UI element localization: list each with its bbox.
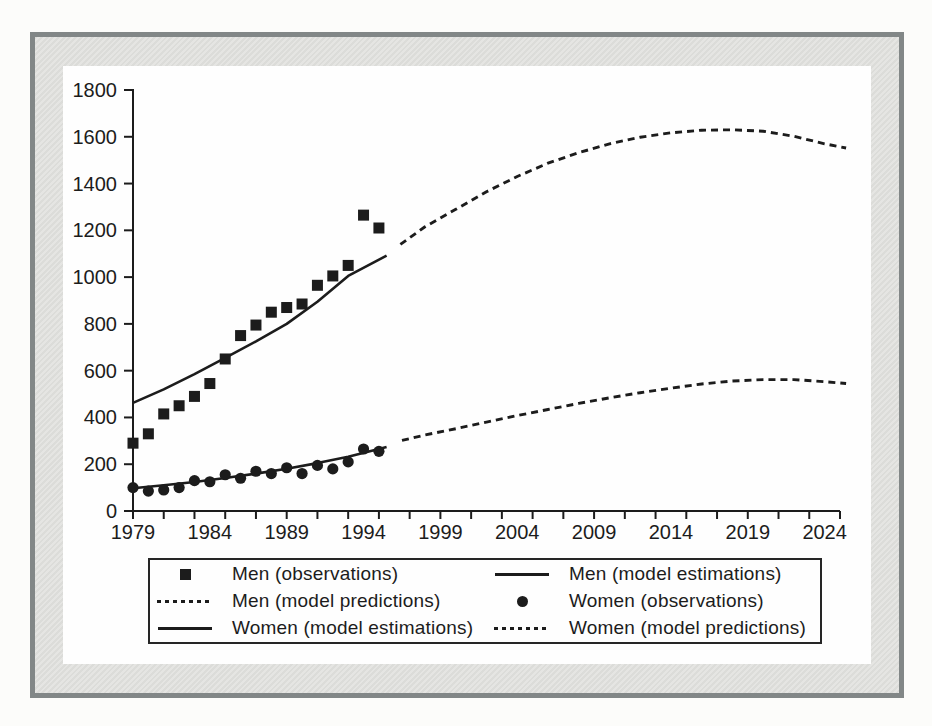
- legend-label: Women (model estimations): [232, 617, 473, 639]
- men-observation-point: [189, 391, 200, 402]
- women-observation-point: [158, 484, 169, 495]
- men-observation-point: [312, 280, 323, 291]
- men-observation-point: [266, 307, 277, 318]
- y-tick-label: 200: [84, 453, 117, 475]
- square-icon: [180, 569, 191, 580]
- legend-marker: [487, 573, 557, 576]
- men-observation-point: [158, 408, 169, 419]
- legend-label: Women (observations): [569, 590, 764, 612]
- women-observation-point: [343, 456, 354, 467]
- x-tick-label: 2024: [802, 521, 847, 543]
- x-tick-label: 1979: [111, 521, 156, 543]
- legend-marker: [150, 627, 220, 630]
- y-tick-label: 1800: [73, 79, 118, 101]
- chart-legend: Men (observations)Men (model estimations…: [148, 558, 822, 644]
- y-tick-label: 0: [106, 500, 117, 522]
- legend-item: Men (model estimations): [487, 561, 820, 587]
- women-observation-point: [373, 446, 384, 457]
- page-background: 0200400600800100012001400160018001979198…: [0, 0, 932, 726]
- men-observation-point: [220, 353, 231, 364]
- men-observation-point: [343, 260, 354, 271]
- solid-line-icon: [158, 627, 212, 630]
- men-model-predictions-line: [400, 130, 846, 245]
- women-observation-point: [266, 468, 277, 479]
- men-observation-point: [128, 438, 139, 449]
- men-observation-point: [174, 400, 185, 411]
- women-observation-point: [250, 466, 261, 477]
- y-tick-label: 1000: [73, 266, 118, 288]
- men-observation-point: [358, 210, 369, 221]
- legend-item: Women (observations): [487, 588, 820, 614]
- dashed-line-icon: [157, 600, 213, 603]
- legend-item: Men (model predictions): [150, 588, 487, 614]
- legend-label: Men (model estimations): [569, 563, 782, 585]
- solid-line-icon: [495, 573, 549, 576]
- men-observation-point: [250, 320, 261, 331]
- women-model-predictions-line: [402, 380, 846, 441]
- legend-label: Men (model predictions): [232, 590, 440, 612]
- men-observation-point: [143, 428, 154, 439]
- men-observation-point: [204, 378, 215, 389]
- x-tick-label: 1994: [341, 521, 386, 543]
- women-observation-point: [358, 443, 369, 454]
- legend-label: Women (model predictions): [569, 617, 806, 639]
- x-tick-label: 2014: [649, 521, 694, 543]
- dashed-line-icon: [494, 627, 550, 630]
- y-tick-label: 600: [84, 360, 117, 382]
- men-observation-point: [281, 302, 292, 313]
- legend-item: Women (model estimations): [150, 615, 487, 641]
- men-observation-point: [373, 222, 384, 233]
- circle-icon: [517, 596, 528, 607]
- women-observation-point: [204, 476, 215, 487]
- women-observation-point: [327, 463, 338, 474]
- x-tick-label: 2009: [572, 521, 617, 543]
- legend-marker: [150, 569, 220, 580]
- legend-marker: [487, 596, 557, 607]
- women-observation-point: [127, 482, 138, 493]
- women-observation-point: [235, 473, 246, 484]
- women-observation-point: [312, 460, 323, 471]
- y-tick-label: 800: [84, 313, 117, 335]
- legend-label: Men (observations): [232, 563, 398, 585]
- figure-frame: 0200400600800100012001400160018001979198…: [30, 32, 904, 698]
- legend-marker: [150, 600, 220, 603]
- women-observation-point: [281, 462, 292, 473]
- chart-panel: 0200400600800100012001400160018001979198…: [63, 66, 871, 664]
- legend-item: Women (model predictions): [487, 615, 820, 641]
- women-observation-point: [189, 475, 200, 486]
- x-tick-label: 1984: [188, 521, 233, 543]
- women-observation-point: [143, 486, 154, 497]
- legend-item: Men (observations): [150, 561, 487, 587]
- x-tick-label: 1999: [418, 521, 463, 543]
- x-tick-label: 1989: [264, 521, 309, 543]
- x-tick-label: 2019: [726, 521, 771, 543]
- women-observation-point: [296, 468, 307, 479]
- x-tick-label: 2004: [495, 521, 540, 543]
- y-tick-label: 1600: [73, 126, 118, 148]
- women-observation-point: [220, 469, 231, 480]
- y-tick-label: 1400: [73, 173, 118, 195]
- y-tick-label: 400: [84, 406, 117, 428]
- y-tick-label: 1200: [73, 219, 118, 241]
- men-observation-point: [235, 330, 246, 341]
- men-observation-point: [327, 270, 338, 281]
- axes: [133, 89, 840, 511]
- legend-marker: [487, 627, 557, 630]
- men-observation-point: [297, 299, 308, 310]
- women-observation-point: [174, 482, 185, 493]
